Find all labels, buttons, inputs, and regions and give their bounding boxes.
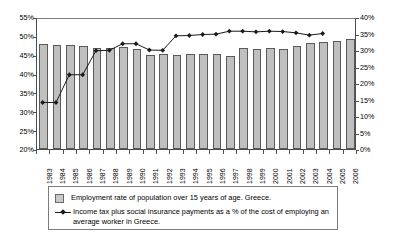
right-axis-tick xyxy=(356,134,359,135)
x-axis-tick xyxy=(316,150,317,154)
x-axis-label-1998: 1998 xyxy=(246,168,253,184)
bar-1992 xyxy=(159,54,168,149)
x-axis-label-1987: 1987 xyxy=(99,168,106,184)
x-axis-tick xyxy=(289,150,290,154)
legend-label-employment-rate: Employment rate of population over 15 ye… xyxy=(71,193,271,203)
legend-item-tax-burden: Income tax plus social insurance payment… xyxy=(55,207,331,226)
x-axis-tick xyxy=(356,150,357,154)
x-axis-tick xyxy=(63,150,64,154)
x-axis-label-2000: 2000 xyxy=(272,168,279,184)
bar-2004 xyxy=(319,42,328,149)
x-axis-tick xyxy=(183,150,184,154)
x-axis-label-1994: 1994 xyxy=(192,168,199,184)
x-axis-label-1996: 1996 xyxy=(219,168,226,184)
plot-area xyxy=(36,18,356,150)
x-axis-tick xyxy=(89,150,90,154)
x-axis-label-2006: 2006 xyxy=(352,168,359,184)
bar-1983 xyxy=(39,44,48,149)
right-axis-tick-label: 20% xyxy=(360,80,392,87)
left-axis-tick-label: 35% xyxy=(4,90,34,97)
legend-label-tax-burden: Income tax plus social insurance payment… xyxy=(73,207,331,226)
bar-2001 xyxy=(279,49,288,149)
bar-2006 xyxy=(346,39,355,149)
left-axis-tick-label: 55% xyxy=(4,14,34,21)
x-axis-label-1997: 1997 xyxy=(232,168,239,184)
right-axis-tick-label: 10% xyxy=(360,113,392,120)
x-axis-label-1999: 1999 xyxy=(259,168,266,184)
right-axis-tick xyxy=(356,68,359,69)
bar-swatch-icon xyxy=(55,194,64,203)
x-axis-tick xyxy=(129,150,130,154)
left-axis-tick-label: 40% xyxy=(4,71,34,78)
left-axis-tick-label: 20% xyxy=(4,146,34,153)
legend-item-employment-rate: Employment rate of population over 15 ye… xyxy=(55,193,271,203)
x-axis-label-2005: 2005 xyxy=(339,168,346,184)
bar-1984 xyxy=(53,45,62,149)
right-axis-tick-label: 0% xyxy=(360,146,392,153)
right-axis-tick xyxy=(356,117,359,118)
x-axis-tick xyxy=(143,150,144,154)
x-axis-tick xyxy=(156,150,157,154)
right-axis-tick xyxy=(356,84,359,85)
right-axis-tick-label: 5% xyxy=(360,130,392,137)
legend: Employment rate of population over 15 ye… xyxy=(48,186,338,230)
bar-1999 xyxy=(253,49,262,149)
bar-2003 xyxy=(306,43,315,149)
x-axis-tick xyxy=(329,150,330,154)
bar-2000 xyxy=(266,48,275,149)
left-axis-tick-label: 50% xyxy=(4,33,34,40)
right-axis-tick-label: 30% xyxy=(360,47,392,54)
left-axis-tick-label: 30% xyxy=(4,109,34,116)
left-axis-tick-label: 25% xyxy=(4,128,34,135)
bar-1989 xyxy=(119,47,128,149)
right-axis-tick-label: 35% xyxy=(360,31,392,38)
x-axis-tick xyxy=(103,150,104,154)
x-axis-tick xyxy=(76,150,77,154)
x-axis-tick xyxy=(49,150,50,154)
bar-1986 xyxy=(79,46,88,149)
bar-2005 xyxy=(333,41,342,149)
right-axis-tick-label: 25% xyxy=(360,64,392,71)
x-axis-tick xyxy=(249,150,250,154)
x-axis-tick xyxy=(303,150,304,154)
x-axis-tick xyxy=(236,150,237,154)
x-axis-label-1995: 1995 xyxy=(206,168,213,184)
x-axis-tick xyxy=(169,150,170,154)
x-axis-tick xyxy=(343,150,344,154)
x-axis-tick xyxy=(223,150,224,154)
bar-1994 xyxy=(186,54,195,149)
x-axis-tick xyxy=(196,150,197,154)
x-axis-tick xyxy=(36,150,37,154)
x-axis-label-2003: 2003 xyxy=(312,168,319,184)
bar-series-layer xyxy=(37,19,355,149)
x-axis-label-1990: 1990 xyxy=(139,168,146,184)
x-axis-tick xyxy=(276,150,277,154)
right-axis-tick xyxy=(356,51,359,52)
x-axis-label-1993: 1993 xyxy=(179,168,186,184)
bar-1985 xyxy=(66,45,75,149)
x-axis-label-2004: 2004 xyxy=(326,168,333,184)
x-axis-label-1992: 1992 xyxy=(166,168,173,184)
left-axis-tick-label: 45% xyxy=(4,52,34,59)
x-axis-label-1988: 1988 xyxy=(112,168,119,184)
bar-1987 xyxy=(93,48,102,149)
right-axis-tick xyxy=(356,18,359,19)
x-axis-label-1983: 1983 xyxy=(46,168,53,184)
chart-container: 20%25%30%35%40%45%50%55% 0%5%10%15%20%25… xyxy=(0,0,403,236)
x-axis-tick xyxy=(263,150,264,154)
right-axis-tick-label: 40% xyxy=(360,14,392,21)
bar-2002 xyxy=(293,46,302,149)
bar-1997 xyxy=(226,56,235,149)
x-axis-label-1989: 1989 xyxy=(126,168,133,184)
bar-1988 xyxy=(106,48,115,149)
right-axis-tick-label: 15% xyxy=(360,97,392,104)
x-axis-label-1991: 1991 xyxy=(152,168,159,184)
x-axis-tick xyxy=(209,150,210,154)
x-axis-label-1986: 1986 xyxy=(86,168,93,184)
x-axis-tick xyxy=(116,150,117,154)
bar-1993 xyxy=(173,55,182,149)
right-axis-tick xyxy=(356,101,359,102)
x-axis-label-1985: 1985 xyxy=(72,168,79,184)
bar-1990 xyxy=(133,49,142,149)
x-axis-label-2001: 2001 xyxy=(286,168,293,184)
